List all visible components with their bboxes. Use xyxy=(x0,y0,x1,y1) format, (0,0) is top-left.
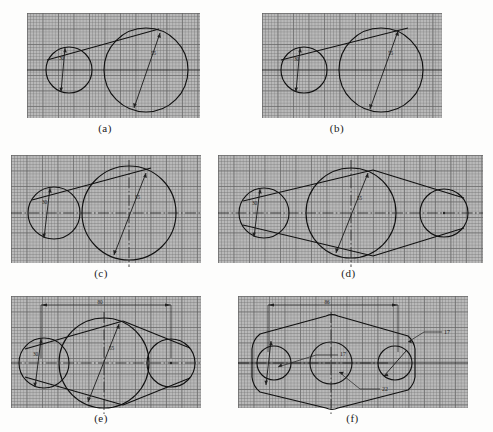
panel-a-drawing: 30 55 xyxy=(27,13,200,118)
large-diameter-leader xyxy=(114,173,146,255)
bore-right-diameter-leader xyxy=(384,351,406,376)
arrow-head xyxy=(157,33,161,38)
panel-f: 86 17 22 17 xyxy=(238,296,483,432)
small-diameter-label: 30 xyxy=(42,199,48,205)
arrow-head xyxy=(39,339,43,344)
small-diameter-label: 30 xyxy=(59,55,65,61)
panel-c-canvas: 30 55 xyxy=(11,155,201,263)
arrow-head xyxy=(392,304,398,307)
plate-outline xyxy=(252,315,415,410)
panel-d-caption: (d) xyxy=(216,267,481,279)
arrow-head xyxy=(298,48,302,53)
arrow-head xyxy=(335,248,339,253)
arrow-head xyxy=(87,397,91,402)
arrow-head xyxy=(41,304,47,307)
arrow-head xyxy=(369,104,373,109)
panel-f-canvas: 86 17 22 17 xyxy=(238,296,468,408)
large-diameter-label: 55 xyxy=(135,194,141,200)
small-diameter-label: 30 xyxy=(33,351,39,357)
small-diameter-label: 30 xyxy=(294,56,300,62)
panel-e-drawing: 80 30 55 xyxy=(11,296,201,408)
leader-right-17-label: 17 xyxy=(444,329,450,335)
arrow-head xyxy=(165,304,171,307)
panel-a: 30 55 (a) xyxy=(27,13,217,141)
panel-e: 80 30 55 (e) xyxy=(11,296,211,432)
panel-a-canvas: 30 55 xyxy=(27,13,200,118)
panel-c-caption: (c) xyxy=(1,267,201,279)
arrow-head xyxy=(278,363,282,367)
upper-tangent-right xyxy=(373,170,464,198)
arrow-head xyxy=(365,173,369,178)
arrow-head xyxy=(48,188,52,193)
overall-dimension-label: 80 xyxy=(97,299,103,305)
arrow-head xyxy=(113,250,117,255)
arrow-head xyxy=(143,173,147,178)
large-diameter-leader xyxy=(134,33,160,108)
panel-b-canvas: 30 55 xyxy=(262,13,442,118)
panel-e-caption: (e) xyxy=(1,412,201,424)
leader-left-17-label: 17 xyxy=(340,351,346,357)
right-center-dot xyxy=(170,362,172,364)
arrow-head xyxy=(264,380,268,385)
upper-tangent-left xyxy=(243,170,373,201)
panel-b-drawing: 30 55 xyxy=(262,13,442,118)
large-diameter-label: 55 xyxy=(151,50,157,56)
lower-tangent-right xyxy=(373,228,464,256)
arrow-head xyxy=(133,103,137,108)
panel-d-canvas: 30 55 xyxy=(218,155,483,263)
arrow-head xyxy=(63,48,67,53)
panel-a-caption: (a) xyxy=(10,122,200,134)
lower-tangent-left xyxy=(25,377,123,405)
large-diameter-leader xyxy=(88,324,119,402)
panel-b: 30 55 (b) xyxy=(262,13,452,141)
panel-e-canvas: 80 30 55 xyxy=(11,296,201,408)
panel-c-drawing: 30 55 xyxy=(11,155,201,263)
arrow-head xyxy=(269,341,273,346)
arrow-head xyxy=(258,189,262,194)
small-diameter-label: 30 xyxy=(252,200,258,206)
large-diameter-label: 55 xyxy=(109,345,115,351)
small-circle-left xyxy=(19,338,69,388)
overall-dimension-label: 86 xyxy=(324,299,330,305)
arrow-head xyxy=(116,324,120,329)
panel-c: 30 55 (c) xyxy=(11,155,211,287)
upper-tangent-line xyxy=(32,168,151,200)
panel-d-drawing: 30 55 xyxy=(218,155,483,263)
right-center-dot xyxy=(443,212,445,214)
lower-tangent-left xyxy=(243,225,373,256)
leader-center-22-label: 22 xyxy=(382,386,388,392)
arrow-head xyxy=(268,304,274,307)
panel-f-caption: (f) xyxy=(230,412,475,424)
panel-d: 30 55 (d) xyxy=(218,155,483,287)
large-diameter-label: 55 xyxy=(357,195,363,201)
drawing-sheet: 30 55 (a) 30 5 xyxy=(0,0,493,432)
large-diameter-label: 55 xyxy=(388,50,394,56)
panel-f-drawing: 86 17 22 17 xyxy=(238,296,468,408)
panel-b-caption: (b) xyxy=(242,122,432,134)
